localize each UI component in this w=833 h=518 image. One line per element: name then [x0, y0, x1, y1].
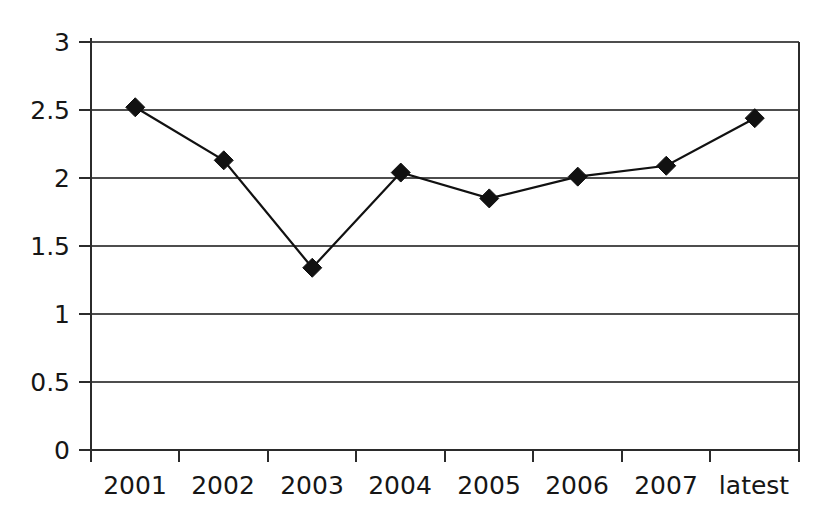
y-tick-label-1-5: 1.5 — [16, 234, 70, 259]
y-tick-marks — [79, 42, 91, 450]
x-tick-label-2001: 2001 — [103, 473, 167, 498]
x-tick-label-2003: 2003 — [280, 473, 344, 498]
x-tick-marks — [91, 450, 799, 462]
x-tick-label-latest: latest — [719, 473, 789, 498]
y-tick-label-1: 1 — [38, 302, 70, 327]
y-tick-label-0-5: 0.5 — [16, 370, 70, 395]
x-tick-label-2006: 2006 — [545, 473, 609, 498]
data-point-latest — [745, 109, 764, 128]
x-tick-label-2005: 2005 — [457, 473, 521, 498]
data-point-2007 — [657, 156, 676, 175]
y-tick-label-3: 3 — [38, 30, 70, 55]
y-tick-label-2-5: 2.5 — [16, 98, 70, 123]
chart-canvas — [0, 0, 833, 518]
data-point-2006 — [568, 167, 587, 186]
y-tick-label-0: 0 — [38, 438, 70, 463]
series-markers — [126, 98, 765, 277]
x-tick-label-2004: 2004 — [368, 473, 432, 498]
line-chart: 3 2.5 2 1.5 1 0.5 0 2001 2002 2003 2004 … — [0, 0, 833, 518]
data-point-2005 — [480, 189, 499, 208]
gridlines-horizontal — [91, 42, 799, 382]
y-tick-label-2: 2 — [38, 166, 70, 191]
x-tick-label-2007: 2007 — [634, 473, 698, 498]
series-line — [135, 107, 755, 267]
x-tick-label-2002: 2002 — [191, 473, 255, 498]
data-point-2001 — [126, 98, 145, 117]
